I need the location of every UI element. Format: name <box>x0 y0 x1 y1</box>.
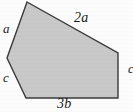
side-label-a: a <box>3 22 10 35</box>
geometry-figure: a 2a c 3b c <box>0 0 133 112</box>
side-label-c-right: c <box>128 62 133 75</box>
side-label-c-left: c <box>3 71 9 84</box>
side-label-3b: 3b <box>57 97 71 111</box>
pentagon-path <box>7 2 118 98</box>
side-label-2a: 2a <box>74 11 88 25</box>
